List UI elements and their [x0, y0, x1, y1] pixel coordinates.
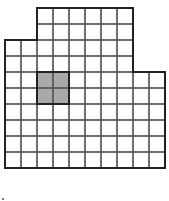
grid-figure: [0, 0, 169, 201]
scan-speck: [2, 198, 4, 200]
grid-lines: [5, 8, 165, 168]
